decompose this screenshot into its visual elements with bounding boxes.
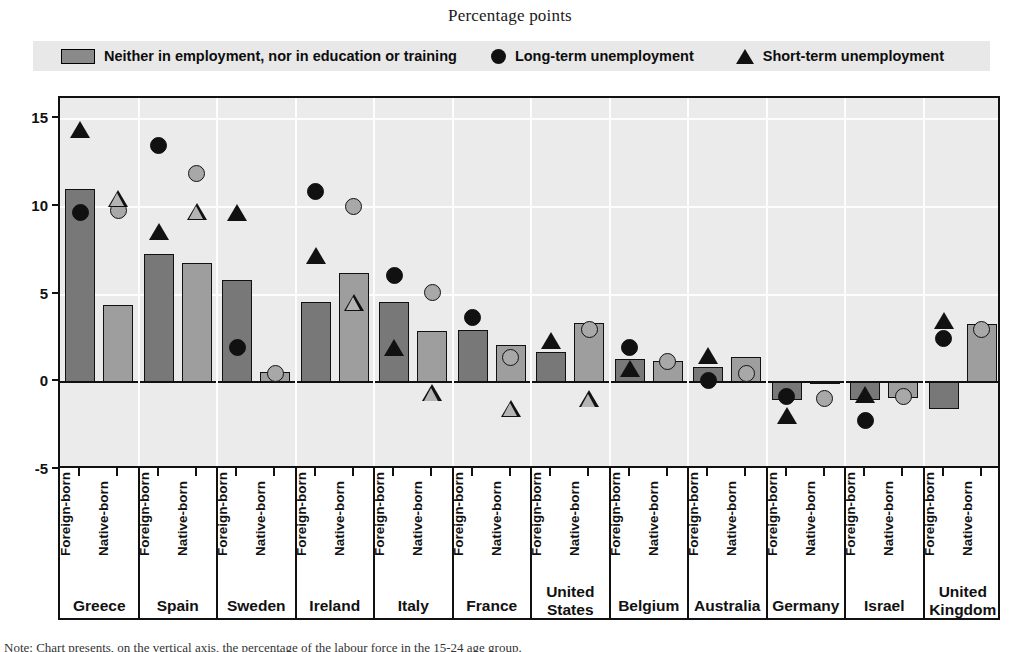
bar-neet (536, 352, 566, 382)
x-label-native-born: Native-born (567, 481, 582, 556)
marker-long-term-unemployment (621, 339, 638, 356)
y-axis-tick-label: 5 (0, 284, 48, 301)
marker-short-term-unemployment (698, 347, 718, 364)
chart-footnote: Note: Chart presents, on the vertical ax… (4, 640, 1014, 652)
marker-short-term-unemployment (227, 204, 247, 221)
marker-short-term-unemployment (777, 407, 797, 424)
marker-short-term-unemployment (306, 247, 326, 264)
marker-long-term-unemployment (738, 365, 755, 382)
marker-long-term-unemployment (424, 284, 441, 301)
y-axis-labels (0, 96, 52, 468)
square-swatch-icon (61, 49, 95, 64)
marker-long-term-unemployment (778, 388, 795, 405)
bar-neet (810, 382, 840, 384)
marker-short-term-unemployment (149, 223, 169, 240)
x-label-native-born: Native-born (646, 481, 661, 556)
marker-short-term-unemployment (187, 203, 207, 220)
legend-item-long-term: Long-term unemployment (491, 48, 694, 64)
x-axis-category-label: Belgium (610, 597, 689, 614)
x-label-native-born: Native-born (960, 481, 975, 556)
x-gridline (452, 98, 454, 466)
marker-short-term-unemployment (855, 386, 875, 403)
bar-neet (222, 280, 252, 382)
bar-neet (929, 382, 959, 408)
x-axis-category-label: Sweden (217, 597, 296, 614)
x-label-native-born: Native-born (175, 481, 190, 556)
circle-marker-icon (491, 49, 506, 64)
x-gridline (373, 98, 375, 466)
marker-short-term-unemployment (384, 339, 404, 356)
y-axis-tick-label: 0 (0, 372, 48, 389)
x-axis-tick (273, 468, 275, 476)
x-gridline (295, 98, 297, 466)
x-axis-category-label: Italy (374, 597, 453, 614)
marker-short-term-unemployment (422, 384, 442, 401)
x-label-foreign-born: Foreign-born (765, 472, 780, 556)
x-gridline (530, 98, 532, 466)
x-axis-category-label: Germany (767, 597, 846, 614)
x-axis-tick (509, 468, 511, 476)
x-label-foreign-born: Foreign-born (137, 472, 152, 556)
x-axis-tick (430, 468, 432, 476)
x-axis-tick (116, 468, 118, 476)
x-axis-tick (549, 468, 551, 476)
x-label-native-born: Native-born (489, 481, 504, 556)
x-axis-tick (980, 468, 982, 476)
x-axis-category-label: Spain (139, 597, 218, 614)
x-label-foreign-born: Foreign-born (451, 472, 466, 556)
y-axis-tick-label: 10 (0, 196, 48, 213)
x-axis-category-label: France (453, 597, 532, 614)
bar-neet (339, 273, 369, 382)
legend-label-neet: Neither in employment, nor in education … (104, 48, 457, 64)
marker-short-term-unemployment (70, 121, 90, 138)
y-axis-tick (52, 467, 60, 469)
x-axis-tick (666, 468, 668, 476)
x-axis-tick (392, 468, 394, 476)
marker-long-term-unemployment (581, 321, 598, 338)
x-axis-tick (471, 468, 473, 476)
marker-long-term-unemployment (72, 204, 89, 221)
y-gridline (60, 118, 998, 120)
marker-short-term-unemployment (620, 360, 640, 377)
x-axis-tick (863, 468, 865, 476)
x-axis-tick (235, 468, 237, 476)
x-axis-band: Foreign-bornNative-bornGreeceForeign-bor… (58, 468, 1000, 620)
marker-long-term-unemployment (345, 198, 362, 215)
legend-item-short-term: Short-term unemployment (736, 48, 944, 64)
chart-legend: Neither in employment, nor in education … (33, 41, 990, 71)
marker-long-term-unemployment (386, 267, 403, 284)
bar-neet (301, 302, 331, 383)
x-axis-tick (587, 468, 589, 476)
x-axis-category-label: Israel (845, 597, 924, 614)
x-axis-tick (706, 468, 708, 476)
x-label-foreign-born: Foreign-born (922, 472, 937, 556)
x-label-foreign-born: Foreign-born (843, 472, 858, 556)
x-axis-tick (823, 468, 825, 476)
marker-long-term-unemployment (229, 339, 246, 356)
x-axis-tick (785, 468, 787, 476)
bar-neet (417, 331, 447, 382)
x-label-foreign-born: Foreign-born (372, 472, 387, 556)
legend-label-short-term: Short-term unemployment (763, 48, 944, 64)
x-gridline (138, 98, 140, 466)
x-axis-tick (157, 468, 159, 476)
x-axis-category-label: Ireland (296, 597, 375, 614)
x-axis-category-label: Australia (688, 597, 767, 614)
marker-long-term-unemployment (188, 165, 205, 182)
x-label-native-born: Native-born (410, 481, 425, 556)
marker-long-term-unemployment (307, 183, 324, 200)
x-gridline (766, 98, 768, 466)
bar-neet (182, 263, 212, 382)
legend-label-long-term: Long-term unemployment (515, 48, 694, 64)
x-axis-category-label: UnitedStates (531, 583, 610, 618)
x-axis-tick (628, 468, 630, 476)
y-axis-tick (52, 292, 60, 294)
marker-short-term-unemployment (501, 400, 521, 417)
marker-short-term-unemployment (344, 294, 364, 311)
y-axis-tick-label: 15 (0, 109, 48, 126)
x-gridline (609, 98, 611, 466)
triangle-marker-icon (736, 49, 754, 64)
x-label-foreign-born: Foreign-born (608, 472, 623, 556)
x-label-foreign-born: Foreign-born (529, 472, 544, 556)
chart-title: Percentage points (0, 6, 1020, 26)
